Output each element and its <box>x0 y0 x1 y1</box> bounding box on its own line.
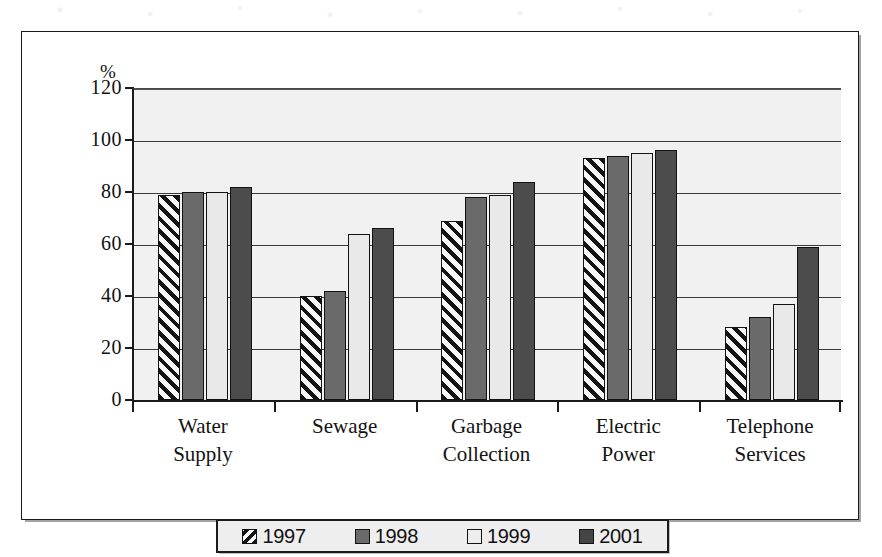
bar-1998-sewage <box>324 291 346 400</box>
x-axis-tick <box>274 402 276 412</box>
bar-1997-sewage <box>300 296 322 400</box>
bar-1997-electric-power <box>583 158 605 400</box>
x-axis-tick <box>557 402 559 412</box>
chart-frame: % 020406080100120 WaterSupplySewageGarba… <box>21 31 859 520</box>
bar-group <box>276 89 418 400</box>
legend-label: 2001 <box>599 525 642 548</box>
legend-item-2001[interactable]: 2001 <box>579 525 642 548</box>
scan-artifact-top <box>0 0 882 26</box>
chart-legend: 1997199819992001 <box>216 519 669 553</box>
bar-1998-telephone-services <box>749 317 771 400</box>
x-axis-category-label: GarbageCollection <box>416 413 558 469</box>
bar-1997-telephone-services <box>725 327 747 400</box>
x-axis-tick <box>699 402 701 412</box>
y-axis-tick-label: 60 <box>62 233 122 253</box>
y-axis-tick-labels: 020406080100120 <box>46 32 122 521</box>
category-label-line1: Sewage <box>312 414 377 438</box>
bar-group <box>559 89 701 400</box>
bar-1999-electric-power <box>631 153 653 400</box>
y-axis-tick-label: 40 <box>62 285 122 305</box>
bar-1997-water-supply <box>158 195 180 400</box>
legend-label: 1998 <box>375 525 418 548</box>
y-axis-tick-label: 20 <box>62 337 122 357</box>
bar-1997-garbage-collection <box>441 221 463 400</box>
y-axis-tick-label: 100 <box>62 129 122 149</box>
bar-1998-water-supply <box>182 192 204 400</box>
category-label-line1: Telephone <box>727 414 814 438</box>
bar-1999-garbage-collection <box>489 195 511 400</box>
x-axis-category-label: ElectricPower <box>557 413 699 469</box>
category-label-line1: Garbage <box>451 414 522 438</box>
plot-area <box>132 88 841 400</box>
bar-2001-water-supply <box>230 187 252 400</box>
category-label-line1: Electric <box>596 414 661 438</box>
category-label-line2: Services <box>699 441 841 469</box>
legend-label: 1999 <box>487 525 530 548</box>
legend-item-1998[interactable]: 1998 <box>355 525 418 548</box>
x-axis-category-labels: WaterSupplySewageGarbageCollectionElectr… <box>132 413 841 493</box>
category-label-line2: Power <box>557 441 699 469</box>
bar-1998-electric-power <box>607 156 629 400</box>
x-axis-category-label: WaterSupply <box>132 413 274 469</box>
x-axis-category-label: TelephoneServices <box>699 413 841 469</box>
hatched-swatch <box>242 529 257 544</box>
bar-1999-telephone-services <box>773 304 795 400</box>
dark-gray-swatch <box>579 529 594 544</box>
bar-2001-electric-power <box>655 150 677 400</box>
y-axis-tick-label: 0 <box>62 389 122 409</box>
category-label-line1: Water <box>178 414 228 438</box>
x-axis-ticks <box>132 402 841 412</box>
gray-swatch <box>355 529 370 544</box>
x-axis-tick <box>132 402 134 412</box>
bar-group <box>134 89 276 400</box>
plot-inner <box>134 89 841 400</box>
x-axis-tick <box>839 402 841 412</box>
bar-1999-sewage <box>348 234 370 400</box>
bar-group <box>418 89 560 400</box>
bar-2001-garbage-collection <box>513 182 535 400</box>
y-axis-tick-label: 120 <box>62 77 122 97</box>
bar-group <box>701 89 843 400</box>
legend-item-1997[interactable]: 1997 <box>242 525 305 548</box>
category-label-line2: Collection <box>416 441 558 469</box>
white-swatch <box>467 529 482 544</box>
bar-1999-water-supply <box>206 192 228 400</box>
bar-2001-sewage <box>372 228 394 400</box>
bar-2001-telephone-services <box>797 247 819 400</box>
bar-1998-garbage-collection <box>465 197 487 400</box>
y-axis-tick-label: 80 <box>62 181 122 201</box>
x-axis-category-label: Sewage <box>274 413 416 441</box>
category-label-line2: Supply <box>132 441 274 469</box>
legend-item-1999[interactable]: 1999 <box>467 525 530 548</box>
x-axis-tick <box>416 402 418 412</box>
legend-label: 1997 <box>262 525 305 548</box>
